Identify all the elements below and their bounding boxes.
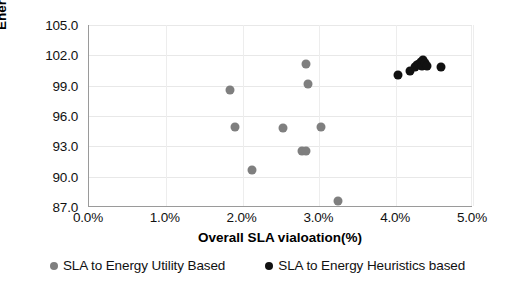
gridline-horizontal xyxy=(89,116,472,117)
data-point xyxy=(302,147,311,156)
x-axis-title: Overall SLA vialoation(%) xyxy=(88,230,472,245)
legend-marker-icon xyxy=(50,262,58,270)
legend-label: SLA to Energy Utility Based xyxy=(63,258,225,273)
data-point xyxy=(303,79,312,88)
data-point xyxy=(226,85,235,94)
x-axis-tick-label: 1.0% xyxy=(150,210,180,225)
legend-item[interactable]: SLA to Energy Heuristics based xyxy=(265,258,465,273)
plot-area xyxy=(88,25,472,207)
gridline-horizontal xyxy=(89,86,472,87)
data-point xyxy=(393,70,402,79)
data-point xyxy=(278,124,287,133)
x-axis-tick-label: 5.0% xyxy=(457,210,487,225)
gridline-vertical xyxy=(166,25,167,206)
y-axis-tick-label: 96.0 xyxy=(53,109,78,124)
gridline-horizontal xyxy=(89,25,472,26)
x-axis-tick-label: 3.0% xyxy=(303,210,333,225)
y-axis-tick-label: 93.0 xyxy=(53,139,78,154)
data-point xyxy=(316,123,325,132)
legend-label: SLA to Energy Heuristics based xyxy=(278,258,465,273)
gridline-vertical xyxy=(243,25,244,206)
gridline-horizontal xyxy=(89,146,472,147)
y-axis-tick-label: 99.0 xyxy=(53,78,78,93)
gridline-vertical xyxy=(319,25,320,206)
data-point xyxy=(230,123,239,132)
gridline-horizontal xyxy=(89,55,472,56)
y-axis-tick-label: 90.0 xyxy=(53,169,78,184)
y-axis-tick-label: 105.0 xyxy=(45,18,78,33)
x-axis-tick-label: 2.0% xyxy=(227,210,257,225)
x-axis-tick-label: 4.0% xyxy=(380,210,410,225)
data-point xyxy=(333,196,342,205)
data-point xyxy=(247,165,256,174)
x-axis-tick-label: 0.0% xyxy=(73,210,103,225)
gridline-vertical xyxy=(396,25,397,206)
data-point xyxy=(302,60,311,69)
legend-item[interactable]: SLA to Energy Utility Based xyxy=(50,258,225,273)
y-axis-title: Energy Consumption (KW) xyxy=(0,0,9,30)
scatter-chart: Energy Consumption (KW) 87.090.093.096.0… xyxy=(0,0,515,284)
y-axis-tick-label: 102.0 xyxy=(45,48,78,63)
chart-legend: SLA to Energy Utility BasedSLA to Energy… xyxy=(0,258,515,273)
data-point xyxy=(422,62,431,71)
gridline-vertical xyxy=(473,25,474,206)
gridline-horizontal xyxy=(89,177,472,178)
legend-marker-icon xyxy=(265,262,273,270)
data-point xyxy=(436,63,445,72)
